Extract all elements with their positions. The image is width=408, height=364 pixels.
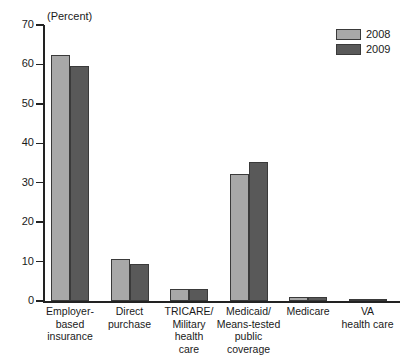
bar-2009-group-3 [249,162,268,301]
x-axis-label-line: VA [329,305,407,318]
x-axis-label-line: public [210,330,288,343]
bar-2009-group-2 [189,289,208,301]
y-axis-tick-mark [36,24,44,26]
y-axis-tick-label: 30 [22,177,34,188]
legend-label-2008: 2008 [366,29,390,40]
legend-item-2008: 2008 [336,28,390,41]
y-axis-unit-label: (Percent) [47,10,92,22]
y-axis-tick-mark [36,64,44,66]
bar-2008-group-0 [51,55,70,301]
x-axis-label-group-5: VAhealth care [329,305,407,330]
bar-2008-group-3 [230,174,249,301]
legend-swatch-2009 [336,44,361,55]
y-axis-tick-label: 10 [22,256,34,267]
y-axis-tick-mark [36,300,44,302]
y-axis-tick-label: 60 [22,58,34,69]
legend-item-2009: 2009 [336,43,390,56]
bar-2009-group-1 [130,264,149,301]
bar-2008-group-2 [170,289,189,301]
bar-2009-group-4 [308,297,327,301]
bar-2009-group-0 [70,66,89,301]
x-axis-line [43,301,400,303]
y-axis-tick-label: 50 [22,98,34,109]
legend-swatch-2008 [336,29,361,40]
y-axis-tick-mark [36,182,44,184]
legend-label-2009: 2009 [366,44,390,55]
bar-chart: (Percent) 010203040506070 Employer-based… [0,0,408,364]
x-axis-label-line: coverage [210,343,288,356]
bar-2009-group-5 [368,299,387,301]
bar-2008-group-4 [289,297,308,301]
y-axis-tick-mark [36,103,44,105]
bar-2008-group-5 [349,299,368,301]
x-axis-label-line: Means-tested [210,318,288,331]
y-axis-tick-mark [36,221,44,223]
bar-2008-group-1 [111,259,130,301]
y-axis-tick-mark [36,143,44,145]
y-axis-tick-label: 40 [22,137,34,148]
y-axis-tick-label: 70 [22,19,34,30]
x-axis-label-line: insurance [31,330,109,343]
plot-area [44,25,396,301]
x-axis-label-line: health care [329,318,407,331]
chart-legend: 20082009 [336,28,390,58]
y-axis-tick-mark [36,261,44,263]
y-axis-tick-label: 20 [22,216,34,227]
